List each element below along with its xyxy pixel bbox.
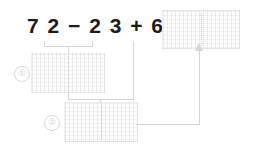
group-bracket-1-right (92, 41, 93, 47)
worksheet-canvas: 7 2 − 2 3 + 6 = ① ② (0, 0, 254, 155)
group-bracket-2-top (68, 99, 134, 100)
group-bracket-1-stem (68, 46, 69, 54)
result-path-vertical (199, 50, 200, 125)
result-path-horizontal (136, 124, 200, 125)
term-6-connector (133, 41, 134, 99)
group-bracket-1-left (44, 41, 45, 47)
step-1-marker: ① (14, 66, 30, 82)
step-2-marker: ② (44, 115, 60, 131)
step-2-box[interactable] (64, 102, 138, 142)
step-1-box[interactable] (31, 53, 105, 93)
group-bracket-2-stem (100, 99, 101, 103)
group-bracket-2-left (68, 91, 69, 100)
arrow-up-icon (195, 43, 203, 51)
